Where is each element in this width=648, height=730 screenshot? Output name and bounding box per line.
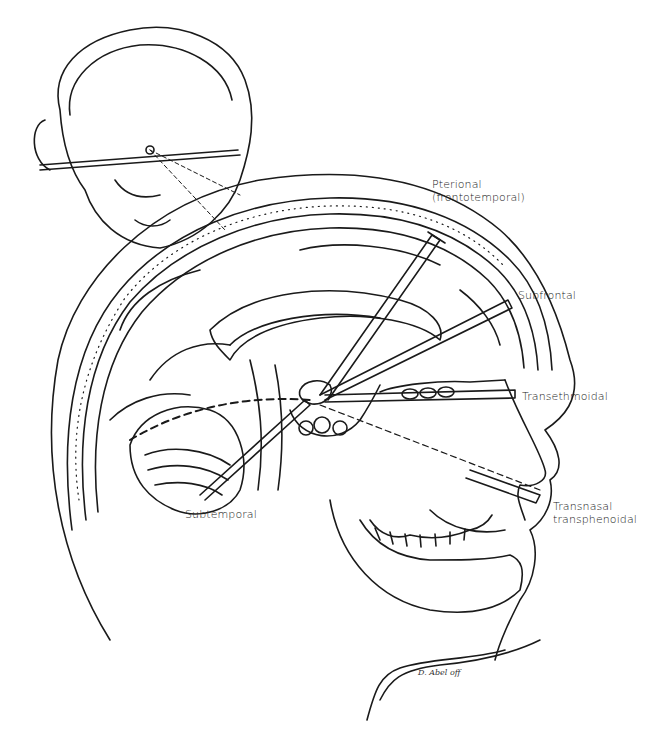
- label-transnasal-line1: Transnasal: [553, 500, 637, 513]
- label-pterional-line2: (frontotemporal): [432, 191, 525, 204]
- transnasal-instrument: [466, 470, 540, 503]
- label-transethmoidal: Transethmoidal: [522, 390, 608, 403]
- label-pterional: Pterional (frontotemporal): [432, 178, 525, 204]
- dura-line: [95, 228, 524, 512]
- cerebellum: [130, 407, 244, 514]
- label-subtemporal: Subtemporal: [185, 508, 257, 521]
- mandible: [330, 500, 522, 612]
- transethmoidal-instrument: [325, 390, 515, 402]
- upper-teeth: [370, 515, 492, 538]
- anatomical-illustration: [0, 0, 648, 730]
- label-pterional-line1: Pterional: [432, 178, 525, 191]
- artist-signature: D. Abel off: [418, 668, 460, 677]
- corpus-callosum: [210, 291, 441, 360]
- neck-contour: [367, 650, 505, 720]
- label-transnasal-line2: transphenoidal: [553, 513, 637, 526]
- label-subfrontal: Subfrontal: [518, 289, 576, 302]
- inset-frontal-head: [34, 27, 251, 248]
- subtemporal-instrument: [200, 400, 310, 500]
- label-transnasal: Transnasal transphenoidal: [553, 500, 637, 526]
